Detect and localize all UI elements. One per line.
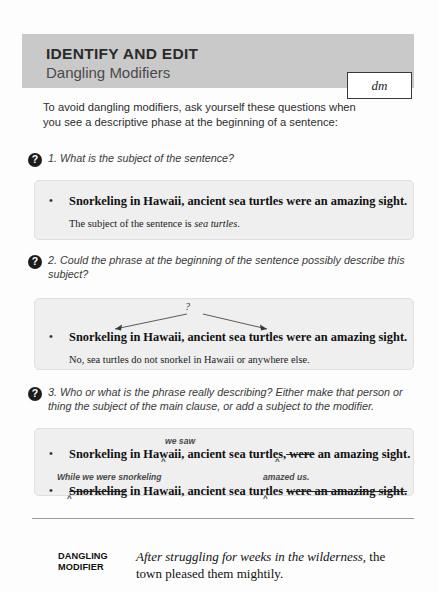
intro-paragraph: To avoid dangling modifiers, ask yoursel… bbox=[43, 100, 363, 130]
bullet-icon: • bbox=[49, 330, 53, 342]
example-1-note-after: . bbox=[237, 218, 240, 229]
example-3-edit-line-2: • While we were snorkeling amazed us. Sn… bbox=[69, 484, 413, 499]
dangling-modifier-label: DANGLING MODIFIER bbox=[58, 551, 128, 574]
dm-tag-box: dm bbox=[347, 72, 412, 99]
insertion-amazed-us: amazed us. bbox=[263, 472, 309, 482]
caret-mark: ^ bbox=[67, 495, 72, 503]
insertion-we-saw: we saw bbox=[165, 436, 195, 446]
example-2-sentence: Snorkeling in Hawaii, ancient sea turtle… bbox=[69, 330, 407, 344]
edit-1-struck-were: were bbox=[286, 447, 314, 461]
question-mark-icon bbox=[28, 153, 42, 167]
edit-2-struck-predicate: were an amazing sight. bbox=[286, 484, 407, 498]
edit-1-part-a: Snorkeling in Hawaii, bbox=[69, 447, 184, 461]
example-box-3: • we saw Snorkeling in Hawaii, ancient s… bbox=[34, 428, 414, 496]
example-1-sentence-line: • Snorkeling in Hawaii, ancient sea turt… bbox=[69, 194, 413, 209]
section-divider bbox=[32, 518, 414, 519]
example-box-1: • Snorkeling in Hawaii, ancient sea turt… bbox=[34, 180, 414, 240]
question-2-text: 2. Could the phrase at the beginning of … bbox=[48, 254, 416, 281]
example-2-note: No, sea turtles do not snorkel in Hawaii… bbox=[69, 354, 413, 365]
dm-tag-label: dm bbox=[348, 77, 411, 93]
edit-1-part-b: ancient sea turtles, bbox=[184, 447, 286, 461]
bullet-icon: • bbox=[49, 194, 53, 206]
caret-mark: ^ bbox=[161, 458, 166, 466]
example-1-note-italic: sea turtles bbox=[194, 218, 237, 229]
footer-label-line-1: DANGLING bbox=[58, 551, 108, 561]
example-box-2: ? • Snorkeling in Hawaii, ancient sea tu… bbox=[34, 298, 414, 370]
page-title: IDENTIFY AND EDIT bbox=[46, 45, 198, 63]
caret-mark: ^ bbox=[263, 495, 268, 503]
question-3-text: 3. Who or what is the phrase really desc… bbox=[48, 386, 416, 413]
describes-arrow-annotation bbox=[95, 305, 285, 333]
question-1-text: 1. What is the subject of the sentence? bbox=[48, 152, 416, 166]
question-mark-icon bbox=[28, 255, 42, 269]
edit-2-struck-snorkeling: Snorkeling bbox=[69, 484, 127, 498]
example-2-sentence-line: • Snorkeling in Hawaii, ancient sea turt… bbox=[69, 330, 413, 345]
question-annotation-mark: ? bbox=[185, 301, 190, 312]
question-mark-icon bbox=[28, 387, 42, 401]
textbook-page: IDENTIFY AND EDIT Dangling Modifiers dm … bbox=[0, 0, 439, 592]
caret-mark: ^ bbox=[275, 458, 280, 466]
insertion-while-we-were-snorkeling: While we were snorkeling bbox=[57, 472, 162, 482]
bullet-icon: • bbox=[49, 484, 53, 496]
footer-label-line-2: MODIFIER bbox=[58, 562, 104, 572]
bullet-icon: • bbox=[49, 447, 53, 459]
example-1-note: The subject of the sentence is sea turtl… bbox=[69, 218, 413, 229]
footer-italic-phrase: After struggling for weeks in the wilder… bbox=[136, 549, 366, 564]
example-1-note-before: The subject of the sentence is bbox=[69, 218, 194, 229]
footer-example-sentence: After struggling for weeks in the wilder… bbox=[136, 549, 404, 582]
example-1-sentence: Snorkeling in Hawaii, ancient sea turtle… bbox=[69, 194, 407, 208]
example-3-edit-line-1: • we saw Snorkeling in Hawaii, ancient s… bbox=[69, 447, 413, 462]
edit-1-part-c: an amazing sight. bbox=[315, 447, 411, 461]
page-subtitle: Dangling Modifiers bbox=[46, 64, 170, 81]
